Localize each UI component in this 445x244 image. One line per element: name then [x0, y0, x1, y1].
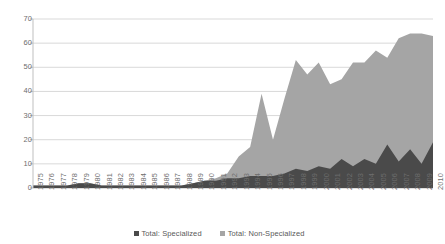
legend-item-total-non-specialized[interactable]: Total: Non-Specialized [220, 229, 305, 238]
legend-label-non-specialized: Total: Non-Specialized [228, 229, 305, 238]
x-axis-tick-label: 2000 [322, 173, 331, 190]
x-axis-tick-label: 1987 [173, 173, 182, 190]
y-axis-tick-label: 70 [8, 15, 32, 23]
x-axis-tick-label: 2003 [356, 173, 365, 190]
y-axis-tick-label: 20 [8, 136, 32, 144]
x-axis-tick-label: 1999 [310, 173, 319, 190]
x-axis-tick-label: 2010 [436, 173, 445, 190]
x-axis-tick-label: 1983 [127, 173, 136, 190]
x-axis-tick-label: 1979 [82, 173, 91, 190]
x-axis-tick-label: 2002 [345, 173, 354, 190]
y-axis-tick-label: 40 [8, 87, 32, 95]
x-axis-tick-label: 1976 [47, 173, 56, 190]
x-axis-tick-label: 1990 [207, 173, 216, 190]
x-axis-tick-label: 2005 [379, 173, 388, 190]
x-axis-tick-label: 1975 [36, 173, 45, 190]
y-axis-labels: 706050403020100 [6, 0, 32, 200]
legend-label-specialized: Total: Specialized [142, 229, 202, 238]
x-axis-tick-label: 1981 [105, 173, 114, 190]
x-axis-tick-label: 1993 [242, 173, 251, 190]
x-axis-tick-label: 1998 [299, 173, 308, 190]
x-axis-tick-label: 1985 [150, 173, 159, 190]
x-axis-tick-label: 1978 [70, 173, 79, 190]
chart-legend: Total: Specialized Total: Non-Specialize… [0, 226, 438, 240]
x-axis-tick-label: 1980 [93, 173, 102, 190]
legend-item-total-specialized[interactable]: Total: Specialized [134, 229, 202, 238]
legend-swatch-specialized [134, 231, 139, 236]
x-axis-tick-label: 1988 [185, 173, 194, 190]
x-axis-tick-label: 2004 [367, 173, 376, 190]
x-axis-tick-label: 2009 [425, 173, 434, 190]
x-axis-tick-label: 1995 [265, 173, 274, 190]
legend-swatch-non-specialized [220, 231, 225, 236]
x-axis-tick-label: 1982 [116, 173, 125, 190]
x-axis-tick-label: 1994 [253, 173, 262, 190]
y-axis-tick-label: 10 [8, 160, 32, 168]
plot-svg [0, 0, 438, 200]
x-axis-tick-label: 1996 [276, 173, 285, 190]
x-axis-tick-label: 1989 [196, 173, 205, 190]
plot-area: 706050403020100 [0, 0, 438, 200]
x-axis-tick-label: 2008 [413, 173, 422, 190]
x-axis-tick-label: 2001 [333, 173, 342, 190]
x-axis-tick-label: 1984 [139, 173, 148, 190]
y-axis-tick-label: 50 [8, 63, 32, 71]
x-axis-tick-label: 2007 [402, 173, 411, 190]
x-axis-tick-label: 1997 [287, 173, 296, 190]
x-axis-tick-label: 1986 [162, 173, 171, 190]
x-axis-tick-label: 1977 [59, 173, 68, 190]
y-axis-tick-label: 30 [8, 112, 32, 120]
x-axis-tick-label: 1992 [230, 173, 239, 190]
x-axis-tick-label: 2006 [390, 173, 399, 190]
y-axis-tick-label: 60 [8, 39, 32, 47]
x-axis-tick-label: 1991 [219, 173, 228, 190]
